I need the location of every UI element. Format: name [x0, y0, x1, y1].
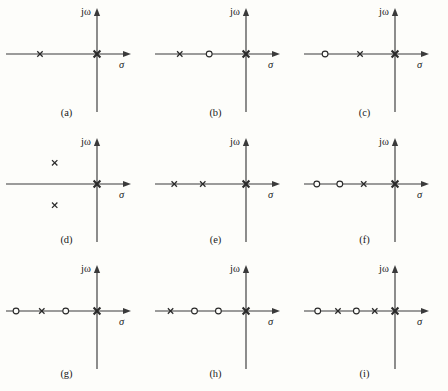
real-axis-label: σ — [119, 316, 125, 327]
real-axis-arrow-icon — [272, 308, 280, 314]
zero-marker-o-icon — [13, 308, 19, 314]
pole-zero-panel-a: jωσ(a) — [0, 0, 149, 130]
real-axis-arrow-icon — [272, 181, 280, 187]
pole-zero-figure-grid: jωσ(a)jωσ(b)jωσ(c)jωσ(d)jωσ(e)jωσ(f)jωσ(… — [0, 0, 448, 391]
imaginary-axis-label: jω — [80, 263, 91, 274]
pole-marker-x-icon — [52, 202, 57, 207]
imaginary-axis-label: jω — [229, 263, 240, 274]
real-axis-arrow-icon — [123, 181, 131, 187]
pole-zero-panel-i: jωσ(i) — [298, 257, 448, 391]
imaginary-axis-arrow-icon — [243, 138, 249, 146]
imaginary-axis-arrow-icon — [243, 265, 249, 273]
real-axis-arrow-icon — [421, 51, 429, 57]
panel-caption-d: (d) — [60, 234, 73, 246]
zero-marker-o-icon — [192, 308, 198, 314]
pole-zero-panel-b: jωσ(b) — [149, 0, 298, 130]
real-axis-label: σ — [119, 189, 125, 200]
zero-marker-o-icon — [322, 51, 328, 57]
imaginary-axis-arrow-icon — [94, 265, 100, 273]
real-axis-arrow-icon — [123, 308, 131, 314]
zero-marker-o-icon — [63, 308, 69, 314]
imaginary-axis-label: jω — [80, 6, 91, 17]
pole-zero-panel-f: jωσ(f) — [298, 130, 448, 257]
zero-marker-o-icon — [216, 308, 222, 314]
real-axis-arrow-icon — [421, 308, 429, 314]
imaginary-axis-label: jω — [378, 136, 389, 147]
pole-zero-panel-g: jωσ(g) — [0, 257, 149, 391]
imaginary-axis-label: jω — [378, 263, 389, 274]
zero-marker-o-icon — [353, 308, 359, 314]
imaginary-axis-label: jω — [229, 136, 240, 147]
real-axis-label: σ — [417, 189, 423, 200]
pole-zero-panel-e: jωσ(e) — [149, 130, 298, 257]
zero-marker-o-icon — [337, 181, 343, 187]
real-axis-arrow-icon — [272, 51, 280, 57]
panel-caption-e: (e) — [210, 234, 222, 246]
zero-marker-o-icon — [206, 51, 212, 57]
real-axis-label: σ — [268, 316, 274, 327]
panel-caption-b: (b) — [209, 107, 222, 119]
imaginary-axis-label: jω — [378, 6, 389, 17]
real-axis-arrow-icon — [123, 51, 131, 57]
imaginary-axis-arrow-icon — [392, 138, 398, 146]
imaginary-axis-label: jω — [80, 136, 91, 147]
imaginary-axis-arrow-icon — [94, 138, 100, 146]
panel-caption-c: (c) — [359, 107, 371, 119]
pole-marker-x-icon — [52, 160, 57, 165]
panel-caption-h: (h) — [209, 368, 222, 380]
imaginary-axis-arrow-icon — [392, 265, 398, 273]
panel-caption-a: (a) — [61, 107, 73, 119]
real-axis-label: σ — [417, 316, 423, 327]
imaginary-axis-arrow-icon — [243, 8, 249, 16]
zero-marker-o-icon — [315, 308, 321, 314]
imaginary-axis-arrow-icon — [392, 8, 398, 16]
real-axis-arrow-icon — [421, 181, 429, 187]
pole-zero-panel-c: jωσ(c) — [298, 0, 448, 130]
real-axis-label: σ — [119, 59, 125, 70]
zero-marker-o-icon — [314, 181, 320, 187]
panel-caption-i: (i) — [360, 368, 370, 380]
real-axis-label: σ — [268, 189, 274, 200]
pole-zero-panel-h: jωσ(h) — [149, 257, 298, 391]
panel-caption-f: (f) — [359, 234, 370, 246]
real-axis-label: σ — [268, 59, 274, 70]
pole-zero-panel-d: jωσ(d) — [0, 130, 149, 257]
real-axis-label: σ — [417, 59, 423, 70]
panel-caption-g: (g) — [60, 368, 73, 380]
imaginary-axis-arrow-icon — [94, 8, 100, 16]
imaginary-axis-label: jω — [229, 6, 240, 17]
